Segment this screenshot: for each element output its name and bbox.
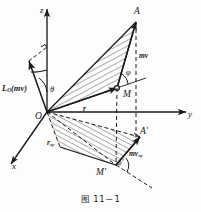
vector-label-r-xy-subscript: xy xyxy=(50,142,54,147)
point-label-origin: O xyxy=(35,112,42,122)
point-label-tip-proj: A' xyxy=(140,127,148,137)
vector-label-position-xy: rxy xyxy=(47,139,54,148)
vector-label-mv-xy-subscript: xy xyxy=(138,153,142,158)
axis-label-z: z xyxy=(40,6,44,15)
vector-label-angular-momentum: LO(mv) xyxy=(2,84,27,93)
angle-label-phi: φ xyxy=(126,68,131,77)
figure-caption: 图 11－1 xyxy=(0,192,201,204)
point-label-particle-proj: M' xyxy=(96,168,106,178)
vector-label-position: r xyxy=(83,105,86,113)
figure-drawing xyxy=(0,0,201,212)
axis-label-x: x xyxy=(12,162,16,171)
vector-label-mv-xy-base: mv xyxy=(129,149,138,158)
projection-triangle xyxy=(47,112,140,165)
vector-label-momentum: mv xyxy=(139,52,148,60)
angle-label-theta: θ xyxy=(50,85,54,94)
angular-momentum-vector xyxy=(29,45,47,113)
figure-container: z y x O M A M' A' LO(mv) mv r rxy mvxy θ… xyxy=(0,0,201,212)
vector-label-momentum-xy: mvxy xyxy=(129,150,143,159)
point-label-vector-tip: A xyxy=(134,7,140,17)
vector-label-L-argument: (mv) xyxy=(11,83,27,93)
angle-label-phi-prime: φ′ xyxy=(117,158,124,167)
axis-label-y: y xyxy=(188,110,192,119)
point-label-particle: M xyxy=(123,90,131,100)
